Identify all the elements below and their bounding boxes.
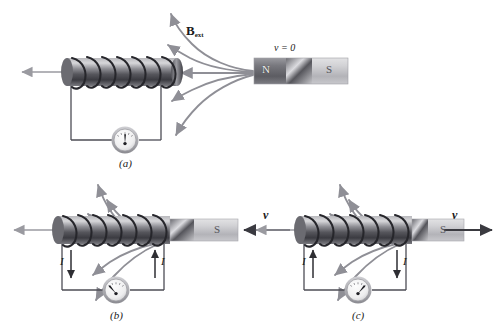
magnet-south-label-b: S [214,224,220,235]
b-ext-subscript: ext [195,31,204,39]
panel-c [256,185,492,304]
b-ext-label: Bext [186,24,204,37]
panel-a-solenoid [61,57,183,89]
panel-b-galvanometer[interactable] [103,277,130,304]
velocity-zero-label: v = 0 [274,43,295,53]
panel-b-velocity-label: v [263,209,268,221]
magnet-north-label: N [262,64,270,75]
panel-b-solenoid [52,215,170,247]
panel-c-current-label-right: I [403,256,407,267]
panel-b [14,185,290,304]
panel-b-current-label-right: I [161,256,165,267]
magnet-south-label-c: S [440,224,446,235]
induction-figure: Bext v = 0 N S (a) v S I I (b) v S I I (… [0,0,498,328]
panel-b-magnet [170,219,238,241]
b-ext-main: B [186,23,195,38]
panel-c-velocity-label: v [452,209,457,221]
figure-canvas [0,0,498,328]
panel-a [22,14,348,154]
panel-b-caption: (b) [110,310,123,321]
panel-b-current-label-left: I [60,256,64,267]
magnet-south-label-a: S [326,64,332,75]
panel-a-galvanometer[interactable] [112,127,139,154]
panel-c-solenoid [294,215,412,247]
panel-a-caption: (a) [119,158,132,169]
panel-c-current-label-left: I [302,256,306,267]
panel-c-galvanometer[interactable] [345,277,372,304]
panel-c-caption: (c) [352,310,364,321]
